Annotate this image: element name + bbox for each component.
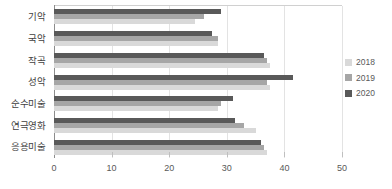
- x-tick: [227, 152, 228, 157]
- legend-item[interactable]: 2018: [345, 58, 375, 67]
- x-tick-label: 50: [337, 163, 347, 173]
- bar-2018[interactable]: [54, 41, 218, 46]
- x-tick: [112, 152, 113, 157]
- x-tick: [169, 152, 170, 157]
- bar-2018[interactable]: [54, 128, 256, 133]
- bar-group: [54, 28, 342, 50]
- category-label: 연극영화: [0, 115, 50, 137]
- x-tick-label: 30: [222, 163, 232, 173]
- bar-2018[interactable]: [54, 63, 270, 68]
- legend-label: 2020: [356, 89, 375, 98]
- bar-groups: [54, 6, 342, 158]
- bar-chart: 기악국악작곡성악순수미술연극영화응용미술 201820192020 010203…: [0, 0, 392, 189]
- legend: 201820192020: [345, 58, 375, 98]
- x-tick-label: 20: [164, 163, 174, 173]
- bar-group: [54, 115, 342, 137]
- legend-item[interactable]: 2019: [345, 74, 375, 83]
- x-tick-label: 10: [107, 163, 117, 173]
- legend-label: 2019: [356, 74, 375, 83]
- category-label: 국악: [0, 28, 50, 50]
- legend-item[interactable]: 2020: [345, 89, 375, 98]
- x-axis-line: [54, 158, 342, 159]
- category-label: 성악: [0, 71, 50, 93]
- bar-2018[interactable]: [54, 150, 267, 155]
- x-tick: [342, 152, 343, 157]
- bar-2018[interactable]: [54, 19, 195, 24]
- legend-label: 2018: [356, 58, 375, 67]
- category-label: 기악: [0, 6, 50, 28]
- bar-group: [54, 49, 342, 71]
- category-label: 순수미술: [0, 93, 50, 115]
- bar-2018[interactable]: [54, 106, 218, 111]
- bar-group: [54, 71, 342, 93]
- gridline: [342, 6, 343, 158]
- bar-group: [54, 93, 342, 115]
- legend-swatch-icon: [345, 59, 352, 66]
- x-tick: [284, 152, 285, 157]
- x-tick-label: 0: [51, 163, 56, 173]
- category-label: 작곡: [0, 49, 50, 71]
- bar-2018[interactable]: [54, 85, 270, 90]
- category-axis-labels: 기악국악작곡성악순수미술연극영화응용미술: [0, 6, 50, 158]
- bar-group: [54, 136, 342, 158]
- plot-area: [54, 6, 342, 158]
- bar-group: [54, 6, 342, 28]
- legend-swatch-icon: [345, 74, 352, 81]
- legend-swatch-icon: [345, 90, 352, 97]
- x-tick-label: 40: [279, 163, 289, 173]
- category-label: 응용미술: [0, 136, 50, 158]
